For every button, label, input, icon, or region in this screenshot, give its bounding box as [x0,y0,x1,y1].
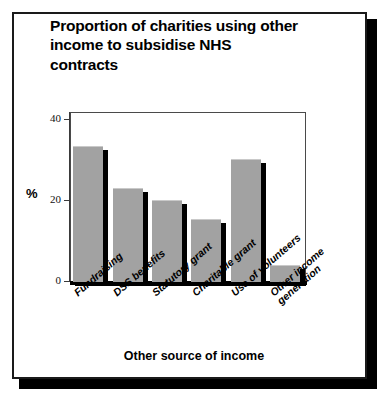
figure-root: Proportion of charities using other inco… [0,0,388,399]
x-axis-title: Other source of income [0,349,388,363]
y-axis-tick-label: 40 [21,112,61,124]
chart-title: Proportion of charities using other inco… [50,16,335,74]
bar[interactable] [73,146,103,282]
y-axis-title: % [26,186,38,201]
bar-group [73,112,108,282]
y-axis-tick-label: 0 [21,274,61,286]
